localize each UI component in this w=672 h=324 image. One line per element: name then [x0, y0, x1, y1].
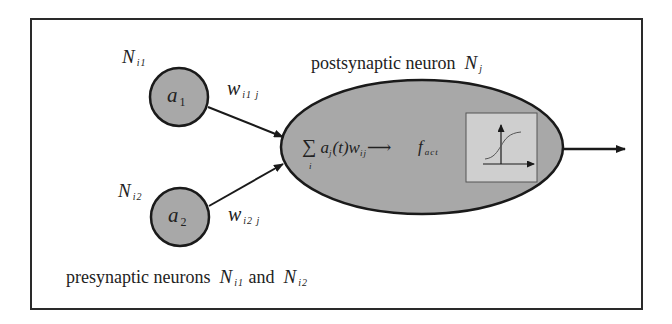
sum-index-text: i — [309, 161, 312, 171]
weight-wi2j-sub: i2 j — [243, 215, 260, 226]
formula-w-sub: ij — [360, 148, 367, 158]
sum-index: i — [309, 161, 312, 171]
label-Ni1-main: N — [122, 46, 135, 67]
activation-a1-main: a — [167, 83, 178, 107]
activation-a2-sub: 2 — [181, 215, 188, 229]
caption: presynaptic neurons Ni1 and Ni2 — [66, 266, 308, 288]
summation-formula: ∑ aj(t)wij⟶ — [302, 135, 391, 158]
postsynaptic-label-main: N — [464, 52, 477, 73]
formula-arrow: ⟶ — [367, 138, 391, 157]
sum-symbol: ∑ — [302, 135, 316, 157]
label-Ni2-main: N — [118, 180, 131, 201]
weight-wi2j-main: w — [228, 203, 241, 225]
caption-prefix: presynaptic neurons — [66, 267, 210, 287]
weight-wi1j-sub: i1 j — [242, 89, 259, 100]
activation-a1: a1 — [167, 83, 187, 110]
synapse-arrow-1 — [208, 107, 283, 137]
synapse-arrow-2 — [209, 164, 283, 206]
postsynaptic-title: postsynaptic neuron Nj — [311, 52, 483, 74]
caption-n1-main: N — [219, 266, 232, 287]
caption-and: and — [248, 267, 274, 287]
activation-a2-main: a — [168, 203, 179, 227]
formula-t: (t) — [333, 138, 349, 157]
postsynaptic-label-sub: j — [479, 63, 483, 74]
weight-wi2j: wi2 j — [228, 203, 260, 226]
weight-wi1j: wi1 j — [227, 77, 259, 100]
caption-n2-main: N — [283, 266, 296, 287]
postsynaptic-title-text: postsynaptic neuron — [311, 53, 455, 73]
activation-a1-sub: 1 — [180, 95, 187, 109]
caption-n2-sub: i2 — [298, 277, 308, 288]
weight-wi1j-main: w — [227, 77, 240, 99]
caption-n1-sub: i1 — [234, 277, 244, 288]
formula-w: w — [349, 138, 360, 157]
activation-f-sub: act — [425, 147, 439, 157]
activation-f-main: f — [418, 137, 423, 156]
label-Ni1-sub: i1 — [137, 57, 147, 68]
formula-a: a — [321, 138, 330, 157]
label-Ni2-sub: i2 — [133, 191, 143, 202]
label-Ni1: Ni1 — [122, 46, 146, 68]
activation-a2: a2 — [168, 203, 188, 230]
label-Ni2: Ni2 — [118, 180, 142, 202]
neuron-diagram: Ni1 a1 wi1 j Ni2 a2 wi2 j postsynaptic n… — [0, 0, 672, 324]
activation-function-label: fact — [418, 137, 439, 157]
